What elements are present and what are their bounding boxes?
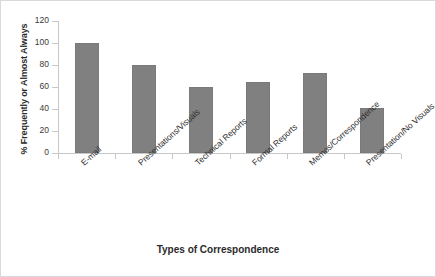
bar [75, 43, 99, 153]
x-tick [172, 154, 173, 159]
y-tick-label: 20 [40, 125, 49, 135]
x-tick [115, 154, 116, 159]
y-tick-label: 120 [35, 15, 49, 25]
y-tick-label: 100 [35, 37, 49, 47]
x-axis-title: Types of Correspondence [1, 244, 435, 255]
x-tick [401, 154, 402, 159]
bar [246, 82, 270, 154]
x-tick [344, 154, 345, 159]
y-tick-label: 0 [44, 147, 49, 157]
x-tick [58, 154, 59, 159]
y-tick-label: 40 [40, 103, 49, 113]
bar [132, 65, 156, 153]
y-tick-label: 80 [40, 59, 49, 69]
y-tick-label: 60 [40, 81, 49, 91]
bar [303, 73, 327, 153]
y-axis-title: % Frequently or Almost Always [17, 19, 31, 159]
bar-chart: % Frequently or Almost Always 0204060801… [0, 0, 436, 277]
x-tick [230, 154, 231, 159]
x-tick [287, 154, 288, 159]
